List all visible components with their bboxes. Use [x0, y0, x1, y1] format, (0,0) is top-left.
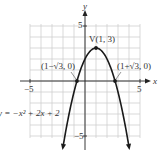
vertex-label: V(1, 3) — [89, 35, 115, 44]
curve-arrow-icon — [126, 144, 131, 150]
axes — [20, 10, 151, 150]
parabola-graph: y x −5 5 5 −5 V(1, 3) (1−√3, 0) (1+√3, 0… — [0, 0, 164, 160]
point-marker — [94, 46, 98, 50]
x-axis-arrow-icon — [145, 79, 151, 84]
x-tick-pos5: 5 — [137, 85, 142, 94]
left-root-leader — [71, 72, 76, 79]
right-root-label: (1+√3, 0) — [117, 62, 151, 71]
curve-arrow-icon — [61, 144, 66, 150]
equation-label: y = −x² + 2x + 2 — [0, 109, 59, 118]
x-tick-neg5: −5 — [24, 85, 34, 94]
y-tick-neg5: −5 — [74, 132, 84, 141]
right-root-leader — [116, 72, 121, 79]
y-tick-pos5: 5 — [78, 21, 83, 30]
point-marker — [75, 79, 79, 83]
left-root-label: (1−√3, 0) — [41, 62, 75, 71]
point-marker — [113, 79, 117, 83]
x-axis-label: x — [153, 77, 157, 86]
y-axis-label: y — [83, 2, 87, 11]
